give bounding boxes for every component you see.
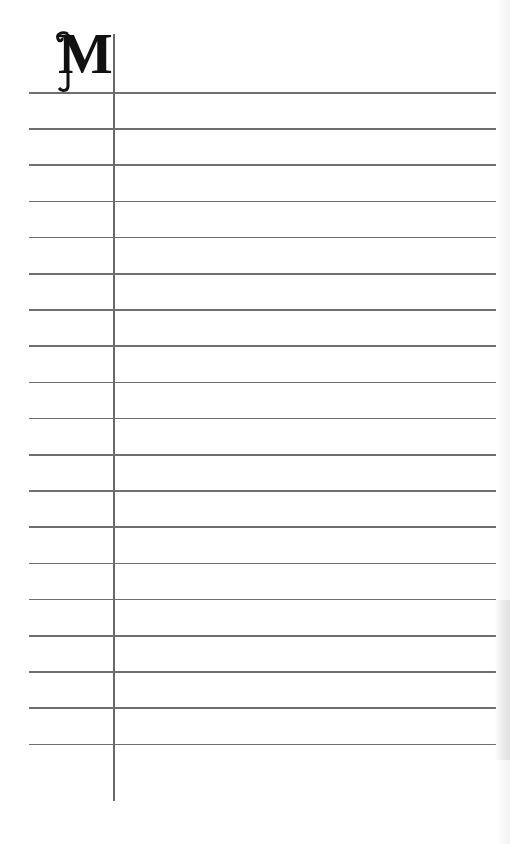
ruled-line xyxy=(29,237,496,239)
page-edge-tabs xyxy=(494,600,510,760)
ruled-line xyxy=(29,707,496,709)
ruled-line xyxy=(29,345,496,347)
section-letter: M xyxy=(46,28,106,92)
ruled-line xyxy=(29,92,496,94)
ruled-line xyxy=(29,418,496,420)
ruled-line xyxy=(29,273,496,275)
ruled-line xyxy=(29,635,496,637)
ruled-line xyxy=(29,128,496,130)
ruled-line xyxy=(29,744,496,746)
ruled-line xyxy=(29,563,496,565)
ruled-line xyxy=(29,490,496,492)
ruled-line xyxy=(29,671,496,673)
ruled-line xyxy=(29,201,496,203)
ruled-line xyxy=(29,599,496,601)
section-letter-text: M xyxy=(58,22,113,86)
ruled-line xyxy=(29,526,496,528)
ruled-line xyxy=(29,382,496,384)
ruled-line xyxy=(29,309,496,311)
address-book-page: M xyxy=(0,0,510,844)
ruled-line xyxy=(29,164,496,166)
ruled-line xyxy=(29,454,496,456)
